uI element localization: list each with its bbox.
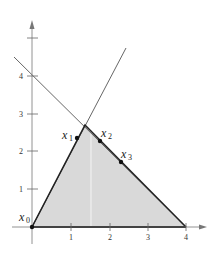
- label-x3: x: [120, 147, 127, 161]
- feasible-region-diagram: 1 2 3 4 1 2 3 4 x 0 x 1 x 2 x 3: [0, 0, 218, 253]
- y-tick-label: 1: [19, 185, 23, 194]
- y-tick-label: 2: [19, 147, 23, 156]
- x-tick-label: 2: [108, 233, 112, 242]
- y-axis-arrow-icon: [30, 20, 35, 29]
- label-x2: x: [100, 126, 107, 140]
- point-x0: [30, 225, 34, 229]
- label-x1: x: [61, 128, 68, 142]
- x-axis-arrow-icon: [199, 225, 207, 230]
- label-x1-sub: 1: [69, 134, 73, 143]
- label-x2-sub: 2: [108, 132, 112, 141]
- x-tick-label: 1: [69, 233, 73, 242]
- y-ticks: [27, 38, 38, 189]
- x-tick-label: 4: [184, 233, 188, 242]
- x-tick-label: 3: [146, 233, 150, 242]
- label-x0: x: [18, 210, 25, 224]
- y-tick-label: 4: [19, 72, 23, 81]
- point-x1: [75, 136, 79, 140]
- label-x0-sub: 0: [26, 216, 30, 225]
- label-x3-sub: 3: [128, 153, 132, 162]
- y-tick-label: 3: [19, 110, 23, 119]
